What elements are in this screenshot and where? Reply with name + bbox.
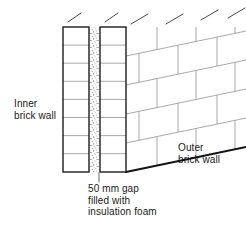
diagram-canvas: Inner brick wall Outer brick wall 50 mm … — [0, 0, 246, 238]
outer-section-cut-stub — [105, 13, 118, 22]
gap-caption-label: 50 mm gap filled with insulation foam — [88, 183, 157, 218]
outer-wall-top-cut-stubs — [131, 8, 245, 24]
inner-wall-label: Inner brick wall — [14, 98, 56, 121]
outer-wall-section — [100, 13, 126, 172]
inner-section-cut-stub — [68, 13, 81, 22]
inner-wall-section — [63, 13, 89, 172]
cavity-gap — [90, 27, 100, 172]
outer-wall-label: Outer brick wall — [178, 142, 220, 165]
